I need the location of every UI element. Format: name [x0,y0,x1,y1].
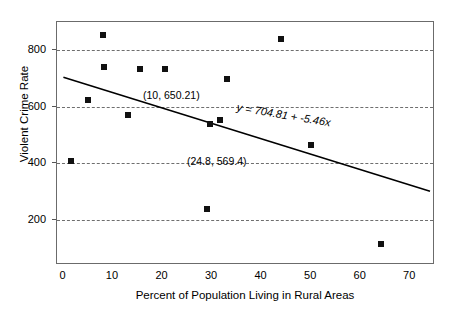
x-tick-label-10: 10 [106,270,118,281]
data-point [308,142,314,148]
data-point [378,241,384,247]
data-point [278,36,284,42]
x-tick-label-50: 50 [304,270,316,281]
x-axis-title: Percent of Population Living in Rural Ar… [56,289,434,301]
scatter-plot-figure: Violent Crime Rate 200400600800 01020304… [0,0,452,315]
data-point [217,117,223,123]
data-point [85,97,91,103]
x-tick-label-60: 60 [354,270,366,281]
annotation-point-2: (24.8, 569.4) [187,156,247,167]
x-tick-label-0: 0 [59,270,65,281]
data-point [125,112,131,118]
annotation-point-1: (10, 650.21) [143,90,200,101]
trendline [57,22,433,263]
x-tick-label-20: 20 [155,270,167,281]
data-point [162,66,168,72]
data-point [224,76,230,82]
plot-area: (10, 650.21) (24.8, 569.4) y = 704.81 + … [56,21,434,264]
x-tick-label-70: 70 [403,270,415,281]
x-tick-label-40: 40 [254,270,266,281]
data-point [207,121,213,127]
data-point [101,64,107,70]
data-point [68,158,74,164]
data-point [204,206,210,212]
x-tick-label-30: 30 [205,270,217,281]
data-point [100,32,106,38]
data-point [137,66,143,72]
